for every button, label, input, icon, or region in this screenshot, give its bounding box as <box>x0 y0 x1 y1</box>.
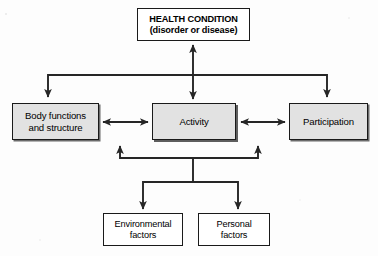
wire-bus-to-personal <box>193 182 238 209</box>
icf-diagram-canvas: HEALTH CONDITION (disorder or disease) B… <box>0 0 378 256</box>
wire-contextual-bus-left-up <box>120 146 193 158</box>
node-participation-label: Participation <box>303 116 354 127</box>
node-health-condition-line2: (disorder or disease) <box>150 25 238 36</box>
node-body-functions-line2: and structure <box>28 122 82 133</box>
node-environmental-factors[interactable]: Environmental factors <box>103 213 183 246</box>
wire-health-bus-right <box>193 75 327 97</box>
node-personal-factors[interactable]: Personal factors <box>198 213 270 246</box>
node-health-condition[interactable]: HEALTH CONDITION (disorder or disease) <box>137 8 250 41</box>
node-personal-factors-line2: factors <box>221 230 248 241</box>
node-personal-factors-line1: Personal <box>216 219 251 230</box>
wire-health-bus-left <box>48 75 193 97</box>
wire-bus-to-environmental <box>143 182 193 209</box>
node-body-functions-line1: Body functions <box>25 110 86 121</box>
node-environmental-factors-line2: factors <box>130 230 157 241</box>
node-body-functions[interactable]: Body functions and structure <box>12 103 99 140</box>
node-environmental-factors-line1: Environmental <box>115 219 172 230</box>
node-activity-label: Activity <box>179 116 208 127</box>
node-participation[interactable]: Participation <box>289 103 368 140</box>
node-health-condition-line1: HEALTH CONDITION <box>149 14 237 25</box>
node-activity[interactable]: Activity <box>152 103 236 140</box>
wire-contextual-bus-right-up <box>193 146 258 158</box>
